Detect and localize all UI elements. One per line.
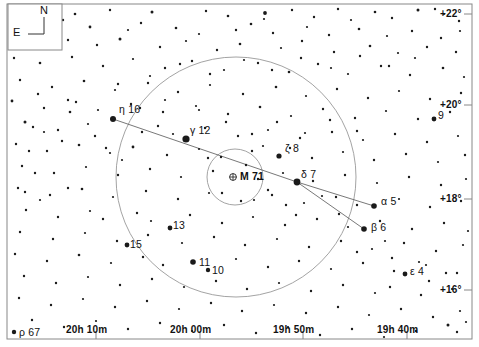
field-star (316, 218, 318, 220)
field-star (237, 135, 239, 137)
ra-tick-label: 20h 10m (66, 325, 107, 335)
field-star (95, 320, 97, 322)
field-star (149, 168, 151, 170)
field-star (295, 214, 297, 216)
field-star (336, 88, 338, 90)
field-star (102, 218, 104, 220)
field-star (198, 109, 200, 111)
field-star (304, 132, 306, 134)
field-star (362, 262, 364, 264)
field-star (417, 9, 420, 12)
field-star (112, 196, 114, 198)
field-star (61, 140, 63, 142)
field-star (408, 176, 410, 178)
field-star (330, 67, 332, 69)
field-star (51, 86, 53, 88)
field-star (358, 28, 361, 31)
field-star (181, 242, 183, 244)
field-star (282, 172, 284, 174)
field-star (456, 272, 458, 274)
field-star (150, 220, 152, 222)
field-star (114, 89, 116, 91)
field-star (110, 262, 112, 264)
field-star (189, 214, 191, 216)
field-star (447, 324, 450, 327)
field-star (437, 161, 439, 163)
field-star (435, 250, 437, 252)
field-star (284, 224, 286, 226)
field-star (102, 65, 104, 67)
star-label: 15 (130, 239, 142, 250)
field-star (119, 284, 121, 286)
field-star (119, 38, 122, 41)
named-star (371, 203, 377, 209)
field-star (141, 131, 143, 133)
field-star (319, 334, 321, 336)
field-star (67, 99, 69, 101)
field-star (380, 65, 382, 67)
field-star (205, 10, 207, 12)
field-star (340, 240, 342, 242)
field-star (127, 29, 129, 31)
field-star (367, 97, 369, 99)
field-star (32, 126, 34, 128)
field-star (458, 20, 460, 22)
field-star (28, 150, 30, 152)
field-star (344, 174, 346, 176)
field-star (179, 63, 181, 65)
field-star (37, 93, 39, 95)
field-star (69, 111, 72, 114)
field-star (373, 159, 375, 161)
field-star (159, 46, 161, 48)
field-star (132, 146, 135, 149)
named-star (206, 268, 210, 272)
field-star (301, 40, 303, 42)
field-star (177, 91, 179, 93)
field-star (225, 121, 227, 123)
field-star (83, 80, 86, 83)
field-star (220, 156, 222, 158)
field-star (329, 119, 331, 121)
field-star (15, 143, 17, 145)
field-star (207, 157, 209, 159)
field-star (246, 288, 248, 290)
field-star (462, 244, 464, 246)
field-star (385, 110, 387, 112)
globular-cluster-icon (230, 174, 237, 181)
field-star (147, 234, 149, 236)
field-star (151, 11, 154, 14)
field-star (172, 133, 174, 135)
field-star (96, 44, 98, 46)
field-star (409, 74, 411, 76)
field-star (215, 280, 217, 282)
field-star (39, 199, 41, 201)
field-star (82, 298, 84, 300)
deep-sky-objects (230, 174, 237, 181)
field-star (411, 30, 413, 32)
field-star (467, 230, 469, 232)
field-star (285, 204, 287, 206)
field-star (24, 191, 26, 193)
field-star (75, 101, 77, 103)
field-star (223, 324, 225, 326)
field-star (177, 198, 179, 200)
field-star (376, 182, 378, 184)
field-star (13, 57, 15, 59)
field-star (291, 9, 293, 11)
field-star (19, 79, 21, 81)
field-star (166, 154, 168, 156)
field-star (109, 152, 111, 154)
field-star (87, 123, 89, 125)
field-star (19, 231, 21, 233)
field-star (117, 174, 119, 176)
field-star (50, 304, 52, 306)
named-star (276, 153, 281, 158)
star-label: ε 4 (410, 266, 424, 277)
field-star (208, 192, 210, 194)
field-star (57, 129, 59, 131)
field-star (290, 115, 292, 117)
field-star (241, 310, 243, 312)
field-star (162, 264, 164, 266)
field-star (388, 65, 390, 67)
field-star (273, 304, 275, 306)
